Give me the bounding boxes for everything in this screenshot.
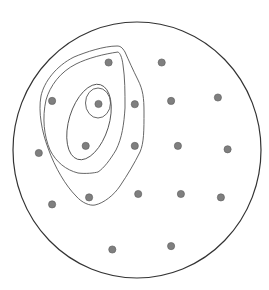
sensor-point <box>135 190 142 197</box>
topographic-diagram <box>0 0 269 290</box>
sensor-point <box>177 190 184 197</box>
sensor-point <box>49 201 56 208</box>
sensor-point <box>217 194 224 201</box>
sensor-point <box>86 194 93 201</box>
sensor-point <box>105 59 112 66</box>
sensor-point <box>214 94 221 101</box>
sensor-point <box>82 142 89 149</box>
sensor-point <box>49 97 56 104</box>
sensor-point <box>168 243 175 250</box>
contour-line-level-3 <box>58 79 119 165</box>
contour-lines <box>40 46 144 205</box>
sensor-point <box>95 100 102 107</box>
sensor-point <box>109 246 116 253</box>
contour-line-level-1 <box>40 46 144 205</box>
sensor-point <box>158 59 165 66</box>
diagram-canvas <box>0 0 269 290</box>
sensor-point <box>131 101 138 108</box>
sensor-point <box>174 142 181 149</box>
sensor-point <box>35 149 42 156</box>
sensor-points <box>35 59 231 253</box>
sensor-point <box>224 146 231 153</box>
sensor-point <box>168 97 175 104</box>
sensor-point <box>131 142 138 149</box>
